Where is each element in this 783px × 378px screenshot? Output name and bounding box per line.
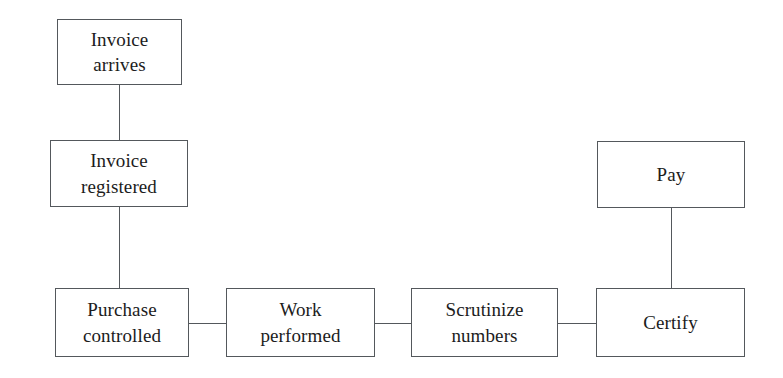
node-scrutinize-numbers[interactable]: Scrutinize numbers <box>411 288 558 357</box>
node-invoice-arrives[interactable]: Invoice arrives <box>57 19 182 85</box>
connector-invoice-arrives-to-invoice-registered <box>119 85 120 140</box>
connector-invoice-registered-to-purchase-controlled <box>119 207 120 288</box>
connector-work-performed-to-scrutinize-numbers <box>375 323 411 324</box>
flowchart-canvas: Invoice arrivesInvoice registeredPurchas… <box>0 0 783 378</box>
node-invoice-registered[interactable]: Invoice registered <box>50 140 188 207</box>
node-purchase-controlled[interactable]: Purchase controlled <box>55 288 189 357</box>
node-pay[interactable]: Pay <box>597 141 745 208</box>
connector-purchase-controlled-to-work-performed <box>189 323 226 324</box>
connector-scrutinize-numbers-to-certify <box>558 323 596 324</box>
node-certify[interactable]: Certify <box>596 288 745 357</box>
node-work-performed[interactable]: Work performed <box>226 288 375 357</box>
connector-certify-to-pay <box>671 208 672 288</box>
